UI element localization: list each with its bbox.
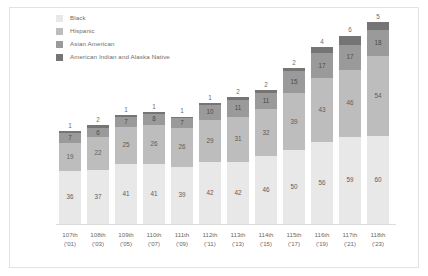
x-tick-congress: 110th (146, 231, 161, 238)
bar-segment-value: 7 (68, 135, 72, 141)
x-tick-congress: 111th (175, 231, 190, 238)
bar-segment[interactable]: 31 (227, 117, 249, 163)
x-axis-line (56, 224, 396, 225)
bar-segment-value: 8 (152, 116, 156, 122)
bar-stack[interactable]: 182641 (143, 112, 165, 224)
bar-stack[interactable]: 2113246 (255, 90, 277, 224)
bar-segment-value: 26 (150, 141, 157, 147)
bar-segment[interactable]: 8 (143, 114, 165, 126)
bar-segment[interactable]: 54 (367, 56, 389, 135)
bar-segment-value: 46 (346, 100, 353, 106)
bar-top-value-label: 1 (199, 95, 221, 101)
bar-segment[interactable]: 7 (59, 133, 81, 143)
bar-segment[interactable]: 50 (283, 150, 305, 224)
bar-segment[interactable]: 11 (227, 100, 249, 116)
bar-segment[interactable]: 10 (199, 105, 221, 120)
bar-top-value-label: 4 (311, 39, 333, 45)
bar-segment-value: 7 (124, 119, 128, 125)
bar-stack[interactable]: 2153950 (283, 68, 305, 224)
bar-segment[interactable]: 42 (199, 162, 221, 224)
x-axis-tick-label: 118th('23) (360, 231, 396, 248)
bar-segment[interactable]: 29 (199, 120, 221, 163)
bar-segment[interactable]: 36 (59, 171, 81, 224)
bar-segment[interactable]: 7 (171, 118, 193, 128)
bar-segment-value: 54 (374, 93, 381, 99)
x-tick-congress: 109th (118, 231, 134, 238)
x-tick-congress: 117th (342, 231, 357, 238)
x-tick-congress: 115th (286, 231, 301, 238)
x-tick-year: ('23) (360, 240, 396, 249)
bar-segment[interactable]: 11 (255, 93, 277, 109)
chart-figure: BlackHispanicAsian AmericanAmerican Indi… (0, 0, 428, 276)
bar-stack[interactable]: 172541 (115, 115, 137, 224)
bar-segment[interactable]: 46 (339, 70, 361, 138)
bar-segment[interactable]: 41 (143, 164, 165, 224)
x-tick-congress: 112th (202, 231, 217, 238)
bar-segment-value: 56 (318, 180, 325, 186)
bar-segment[interactable]: 25 (115, 127, 137, 164)
bar-segment-value: 32 (262, 130, 269, 136)
bar-segment[interactable]: 17 (339, 45, 361, 70)
bar-segment[interactable]: 6 (87, 128, 109, 137)
bar-top-value-label: 2 (87, 117, 109, 123)
x-tick-congress: 114th (258, 231, 273, 238)
bar-stack[interactable]: 171936 (59, 131, 81, 224)
bar-segment[interactable] (367, 22, 389, 29)
bar-stack[interactable]: 4174356 (311, 47, 333, 224)
bar-segment-value: 36 (66, 194, 73, 200)
bar-segment-value: 7 (180, 120, 184, 126)
bar-segment-value: 42 (234, 190, 241, 196)
bar-segment-value: 39 (290, 119, 297, 125)
bar-segment[interactable]: 41 (115, 164, 137, 224)
bar-segment-value: 41 (122, 191, 129, 197)
x-tick-congress: 107th (62, 231, 78, 238)
bar-segment[interactable]: 19 (59, 143, 81, 171)
bar-stack[interactable]: 1102942 (199, 103, 221, 224)
bar-top-value-label: 2 (255, 82, 277, 88)
bar-stack[interactable]: 172639 (171, 117, 193, 224)
bar-stack[interactable]: 262237 (87, 125, 109, 224)
bar-segment-value: 37 (94, 194, 101, 200)
bar-segment-value: 60 (374, 177, 381, 183)
bar-segment-value: 17 (318, 63, 325, 69)
bar-segment[interactable]: 59 (339, 137, 361, 224)
bar-segment[interactable]: 17 (311, 53, 333, 78)
bar-segment-value: 6 (96, 130, 100, 136)
bar-top-value-label: 1 (171, 108, 193, 114)
bar-segment-value: 50 (290, 184, 297, 190)
bar-segment[interactable] (339, 36, 361, 45)
bar-top-value-label: 1 (59, 123, 81, 129)
bar-stack[interactable]: 6174659 (339, 36, 361, 224)
bar-segment[interactable]: 56 (311, 142, 333, 224)
bar-top-value-label: 2 (283, 60, 305, 66)
bar-segment[interactable]: 39 (171, 167, 193, 224)
bar-stack[interactable]: 2113142 (227, 97, 249, 224)
bar-segment[interactable]: 7 (115, 117, 137, 127)
bar-segment-value: 25 (122, 142, 129, 148)
bar-segment[interactable]: 39 (283, 93, 305, 150)
bar-segment[interactable]: 26 (143, 125, 165, 163)
x-tick-congress: 113th (230, 231, 245, 238)
bar-segment-value: 22 (94, 150, 101, 156)
bar-segment-value: 11 (235, 105, 242, 111)
bar-segment[interactable]: 18 (367, 30, 389, 56)
bar-segment-value: 42 (206, 190, 213, 196)
bar-segment-value: 10 (206, 109, 213, 115)
bar-segment[interactable]: 22 (87, 137, 109, 169)
bar-segment[interactable]: 46 (255, 156, 277, 224)
bar-segment[interactable]: 15 (283, 71, 305, 93)
chart-plot-area: 1719362622371725411826411726391102942211… (56, 18, 392, 224)
bar-segment[interactable]: 26 (171, 128, 193, 166)
bar-segment[interactable]: 60 (367, 136, 389, 224)
bar-stack[interactable]: 5185460 (367, 22, 389, 224)
bar-segment[interactable]: 37 (87, 170, 109, 224)
bar-top-value-label: 6 (339, 27, 361, 33)
bar-segment-value: 17 (346, 54, 353, 60)
bar-segment[interactable]: 43 (311, 78, 333, 141)
bar-segment[interactable]: 32 (255, 109, 277, 156)
bar-segment-value: 26 (178, 144, 185, 150)
bar-top-value-label: 2 (227, 89, 249, 95)
bar-segment-value: 19 (66, 154, 73, 160)
bar-segment-value: 31 (234, 136, 241, 142)
bar-segment[interactable]: 42 (227, 162, 249, 224)
